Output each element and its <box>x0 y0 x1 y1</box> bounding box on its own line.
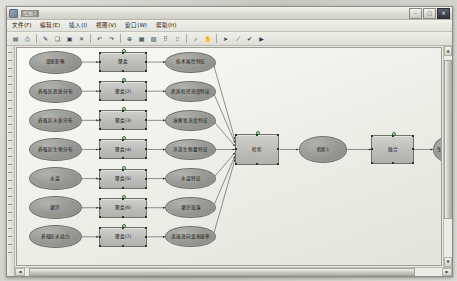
resize-handle[interactable] <box>235 163 237 165</box>
maximize-button[interactable]: □ <box>423 8 436 19</box>
align-icon[interactable]: ⠿ <box>160 33 171 44</box>
resize-handle[interactable] <box>235 134 237 136</box>
menu-item-edit[interactable]: 编辑(E) <box>39 21 61 30</box>
resize-handle[interactable] <box>99 227 101 229</box>
output-node[interactable]: 生态养殖区流动模型 <box>433 134 442 164</box>
source-node-s6[interactable]: 潮汐 <box>29 196 81 219</box>
resize-handle[interactable] <box>145 52 147 54</box>
redo-icon[interactable]: ↷ <box>106 33 117 44</box>
resize-handle[interactable] <box>99 236 101 238</box>
resize-handle[interactable] <box>122 216 124 218</box>
resize-handle[interactable] <box>99 139 101 141</box>
resize-handle[interactable] <box>99 148 101 150</box>
menu-item-insert[interactable]: 插入(I) <box>68 21 88 30</box>
resize-handle[interactable] <box>99 81 101 83</box>
resize-handle[interactable] <box>277 148 279 150</box>
resize-handle[interactable] <box>145 81 147 83</box>
menu-item-window[interactable]: 窗口(W) <box>124 21 148 30</box>
resize-handle[interactable] <box>122 81 124 83</box>
feature-node-f7[interactable]: 流速流向变化速率 <box>165 226 215 247</box>
retrieve-node[interactable]: 检索 <box>235 134 279 164</box>
fusion-node[interactable]: 融合 <box>371 135 413 163</box>
connector[interactable] <box>213 120 235 146</box>
resize-handle[interactable] <box>122 157 124 159</box>
resize-handle[interactable] <box>145 119 147 121</box>
close-button[interactable]: ✕ <box>437 8 450 19</box>
resize-handle[interactable] <box>122 227 124 229</box>
source-node-s2[interactable]: 养殖区底质分布 <box>29 80 81 103</box>
resize-handle[interactable] <box>256 163 258 165</box>
feature-node-f4[interactable]: 浮游生物量特征 <box>165 139 215 160</box>
resize-handle[interactable] <box>145 90 147 92</box>
resize-handle[interactable] <box>235 148 237 150</box>
resize-handle[interactable] <box>99 207 101 209</box>
cluster-node-c7[interactable]: 聚类(7) <box>99 227 147 247</box>
resize-handle[interactable] <box>145 157 147 159</box>
resize-handle[interactable] <box>99 70 101 72</box>
resize-handle[interactable] <box>122 198 124 200</box>
resize-handle[interactable] <box>256 134 258 136</box>
scroll-down-button[interactable]: ▼ <box>444 257 452 267</box>
resize-handle[interactable] <box>122 139 124 141</box>
resize-handle[interactable] <box>145 178 147 180</box>
resize-handle[interactable] <box>99 157 101 159</box>
resize-handle[interactable] <box>145 169 147 171</box>
paste-icon[interactable]: ▣ <box>64 33 75 44</box>
resize-handle[interactable] <box>122 99 124 101</box>
pan-icon[interactable]: ✋ <box>202 33 213 44</box>
resize-handle[interactable] <box>99 187 101 189</box>
resize-handle[interactable] <box>145 61 147 63</box>
source-node-s3[interactable]: 养殖区水质分布 <box>29 109 81 132</box>
resize-handle[interactable] <box>122 110 124 112</box>
resize-handle[interactable] <box>122 128 124 130</box>
feature-node-f3[interactable]: 溶解氧浓度特征 <box>165 110 215 131</box>
resize-handle[interactable] <box>371 148 373 150</box>
resize-handle[interactable] <box>99 245 101 247</box>
menu-item-file[interactable]: 文件(F) <box>11 21 32 30</box>
feature-node-f1[interactable]: 技术属性特征 <box>165 52 215 73</box>
resize-handle[interactable] <box>122 187 124 189</box>
vertical-scrollbar[interactable]: ▲ ▼ <box>443 46 452 267</box>
resize-handle[interactable] <box>145 227 147 229</box>
resize-handle[interactable] <box>145 187 147 189</box>
delete-icon[interactable]: ✕ <box>76 33 87 44</box>
feature-node-f2[interactable]: 底质粒径浓度特征 <box>165 81 215 102</box>
resize-handle[interactable] <box>392 135 394 137</box>
resize-handle[interactable] <box>145 128 147 130</box>
cluster-node-c4[interactable]: 聚类(4) <box>99 139 147 159</box>
cluster-node-c2[interactable]: 聚类(2) <box>99 81 147 101</box>
resize-handle[interactable] <box>277 163 279 165</box>
window-controls[interactable]: – □ ✕ <box>409 8 450 19</box>
resize-handle[interactable] <box>412 135 414 137</box>
resize-handle[interactable] <box>99 90 101 92</box>
grid-icon[interactable]: ▦ <box>136 33 147 44</box>
resize-handle[interactable] <box>371 162 373 164</box>
check-icon[interactable]: ✔ <box>244 33 255 44</box>
connector[interactable] <box>213 156 235 208</box>
connector[interactable] <box>213 159 235 237</box>
resize-handle[interactable] <box>145 70 147 72</box>
resize-handle[interactable] <box>122 52 124 54</box>
resize-handle[interactable] <box>412 148 414 150</box>
resize-handle[interactable] <box>122 245 124 247</box>
retrieve-result-node[interactable]: 检索1 <box>299 136 347 162</box>
resize-handle[interactable] <box>99 52 101 54</box>
resize-handle[interactable] <box>145 236 147 238</box>
resize-handle[interactable] <box>145 245 147 247</box>
scroll-right-button[interactable]: ▶ <box>442 268 452 276</box>
feature-node-f6[interactable]: 潮汐涨落 <box>165 197 215 218</box>
menu-item-help[interactable]: 帮助(H) <box>155 21 177 30</box>
connector[interactable] <box>213 153 235 179</box>
minimize-button[interactable]: – <box>409 8 422 19</box>
resize-handle[interactable] <box>122 169 124 171</box>
resize-handle[interactable] <box>371 135 373 137</box>
connector[interactable] <box>213 62 235 140</box>
print-icon[interactable]: ⎙ <box>22 33 33 44</box>
layer-icon[interactable]: ▧ <box>148 33 159 44</box>
distribute-icon[interactable]: ⁝⁝ <box>172 33 183 44</box>
scroll-up-button[interactable]: ▲ <box>444 46 452 56</box>
cluster-node-c6[interactable]: 聚类(6) <box>99 198 147 218</box>
resize-handle[interactable] <box>145 110 147 112</box>
resize-handle[interactable] <box>99 119 101 121</box>
resize-handle[interactable] <box>145 99 147 101</box>
